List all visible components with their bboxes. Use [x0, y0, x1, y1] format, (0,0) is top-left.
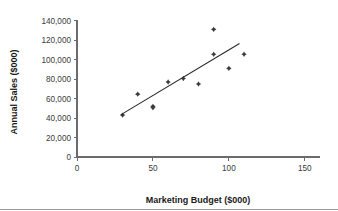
y-tick-label: 60,000 [46, 95, 71, 104]
x-axis-title: Marketing Budget ($000) [146, 195, 251, 205]
x-tick-label: 150 [298, 164, 312, 173]
data-point [241, 52, 246, 57]
y-tick-label: 140,000 [41, 17, 71, 26]
x-tick-label: 100 [222, 164, 236, 173]
data-point [165, 79, 170, 84]
scatter-chart: 020,00040,00060,00080,000100,000120,0001… [0, 0, 338, 211]
y-tick-label: 120,000 [41, 36, 71, 45]
x-axis-tick-labels: 050100150 [75, 164, 312, 173]
y-tick-label: 0 [66, 153, 71, 162]
y-tick-label: 80,000 [46, 75, 71, 84]
x-tick-label: 50 [148, 164, 158, 173]
x-axis: 050100150 [75, 157, 320, 173]
y-tick-label: 20,000 [46, 134, 71, 143]
data-point [226, 66, 231, 71]
x-tick-label: 0 [75, 164, 80, 173]
data-point [211, 52, 216, 57]
y-axis: 020,00040,00060,00080,000100,000120,0001… [41, 17, 77, 162]
y-tick-label: 40,000 [46, 114, 71, 123]
chart-canvas: 020,00040,00060,00080,000100,000120,0001… [0, 0, 338, 211]
data-point [211, 27, 216, 32]
data-point [135, 91, 140, 96]
x-axis-ticks [77, 157, 305, 161]
trend-line [121, 43, 239, 114]
y-axis-title: Annual Sales ($000) [9, 49, 19, 134]
y-tick-label: 100,000 [41, 56, 71, 65]
y-axis-tick-labels: 020,00040,00060,00080,000100,000120,0001… [41, 17, 71, 162]
data-point [196, 81, 201, 86]
